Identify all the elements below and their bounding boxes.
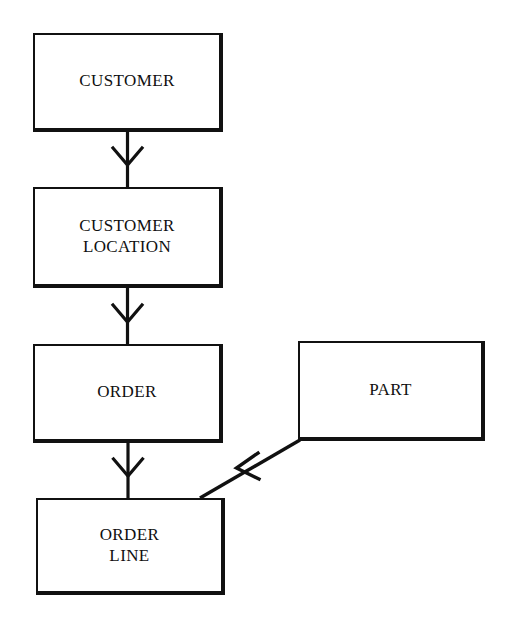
entity-box-customer[interactable]: CUSTOMER (33, 33, 223, 132)
connector-line (200, 440, 300, 498)
connector-customer-to-customer-location (113, 131, 142, 188)
entity-label-customer: CUSTOMER (79, 71, 174, 92)
diagram-canvas: CUSTOMER CUSTOMER LOCATION ORDER PART OR… (0, 0, 517, 640)
entity-label-order: ORDER (97, 382, 157, 403)
entity-box-order[interactable]: ORDER (33, 344, 223, 443)
connector-customer-location-to-order (113, 288, 142, 345)
entity-label-customer-location: CUSTOMER LOCATION (79, 216, 174, 257)
entity-label-order-line: ORDER LINE (100, 525, 160, 566)
entity-box-order-line[interactable]: ORDER LINE (36, 498, 225, 595)
connector-order-to-order-line (114, 443, 143, 499)
entity-box-customer-location[interactable]: CUSTOMER LOCATION (33, 187, 223, 288)
connector-part-to-order-line (200, 440, 300, 498)
entity-label-part: PART (369, 380, 411, 401)
entity-box-part[interactable]: PART (298, 341, 485, 441)
